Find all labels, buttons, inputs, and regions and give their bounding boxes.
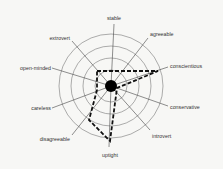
spoke-agreeable <box>111 38 148 86</box>
axis-label-disagreeable: disagreeable <box>40 136 70 142</box>
axis-label-conscientious: conscientious <box>170 63 202 69</box>
axis-label-extrovert: extrovert <box>49 35 70 41</box>
profile-polygon <box>89 71 158 141</box>
spoke-stable <box>111 24 114 86</box>
center-dot <box>105 80 117 92</box>
axis-label-stable: stable <box>107 15 121 21</box>
axis-label-introvert: introvert <box>152 133 172 139</box>
axis-label-open-minded: open-minded <box>20 65 51 71</box>
axis-label-conservative: conservative <box>170 104 200 110</box>
spoke-conscientious <box>111 67 168 86</box>
spoke-open-minded <box>52 68 111 86</box>
axis-label-agreeable: agreeable <box>150 31 174 37</box>
axis-label-careless: careless <box>31 105 51 111</box>
radar-chart: stableagreeableconscientiousconservative… <box>0 0 223 169</box>
axis-label-uptight: uptight <box>102 152 118 158</box>
